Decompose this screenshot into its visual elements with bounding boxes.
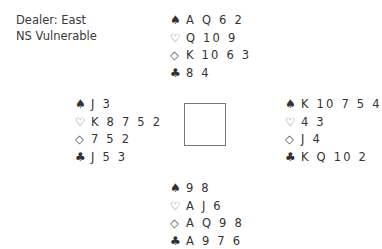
diamond-icon: ◇ <box>170 47 186 65</box>
south-hearts-row: ♡ A J 6 <box>170 198 244 216</box>
heart-icon: ♡ <box>75 114 91 132</box>
spade-icon: ♠ <box>170 180 186 198</box>
spade-icon: ♠ <box>170 12 186 30</box>
west-spades-row: ♠ J 3 <box>75 96 162 114</box>
diamond-icon: ◇ <box>75 131 91 149</box>
west-hearts: K 8 7 5 2 <box>91 114 162 132</box>
east-clubs: K Q 10 2 <box>301 149 368 167</box>
south-hand: ♠ 9 8 ♡ A J 6 ◇ A Q 9 8 ♣ A 9 7 6 <box>170 180 244 249</box>
club-icon: ♣ <box>75 149 91 167</box>
south-diamonds: A Q 9 8 <box>186 215 244 233</box>
heart-icon: ♡ <box>170 30 186 48</box>
east-spades-row: ♠ K 10 7 5 4 <box>285 96 382 114</box>
north-spades: A Q 6 2 <box>186 12 244 30</box>
south-clubs-row: ♣ A 9 7 6 <box>170 233 244 249</box>
east-clubs-row: ♣ K Q 10 2 <box>285 149 382 167</box>
east-spades: K 10 7 5 4 <box>301 96 382 114</box>
west-diamonds-row: ◇ 7 5 2 <box>75 131 162 149</box>
west-spades: J 3 <box>91 96 112 114</box>
club-icon: ♣ <box>170 233 186 249</box>
north-spades-row: ♠ A Q 6 2 <box>170 12 251 30</box>
south-spades-row: ♠ 9 8 <box>170 180 244 198</box>
north-hand: ♠ A Q 6 2 ♡ Q 10 9 ◇ K 10 6 3 ♣ 8 4 <box>170 12 251 82</box>
club-icon: ♣ <box>285 149 301 167</box>
table-center-box <box>184 103 226 146</box>
north-clubs-row: ♣ 8 4 <box>170 65 251 83</box>
east-diamonds: J 4 <box>301 131 322 149</box>
club-icon: ♣ <box>170 65 186 83</box>
north-hearts: Q 10 9 <box>186 30 238 48</box>
dealer-label: Dealer: East <box>16 12 97 28</box>
deal-info: Dealer: East NS Vulnerable <box>16 12 97 44</box>
east-diamonds-row: ◇ J 4 <box>285 131 382 149</box>
north-clubs: 8 4 <box>186 65 211 83</box>
south-hearts: A J 6 <box>186 198 223 216</box>
diamond-icon: ◇ <box>285 131 301 149</box>
vulnerability-label: NS Vulnerable <box>16 28 97 44</box>
heart-icon: ♡ <box>285 114 301 132</box>
west-hearts-row: ♡ K 8 7 5 2 <box>75 114 162 132</box>
heart-icon: ♡ <box>170 198 186 216</box>
east-hand: ♠ K 10 7 5 4 ♡ 4 3 ◇ J 4 ♣ K Q 10 2 <box>285 96 382 166</box>
north-diamonds-row: ◇ K 10 6 3 <box>170 47 251 65</box>
north-hearts-row: ♡ Q 10 9 <box>170 30 251 48</box>
west-clubs-row: ♣ J 5 3 <box>75 149 162 167</box>
east-hearts: 4 3 <box>301 114 326 132</box>
south-diamonds-row: ◇ A Q 9 8 <box>170 215 244 233</box>
west-hand: ♠ J 3 ♡ K 8 7 5 2 ◇ 7 5 2 ♣ J 5 3 <box>75 96 162 166</box>
south-spades: 9 8 <box>186 180 211 198</box>
west-diamonds: 7 5 2 <box>91 131 131 149</box>
spade-icon: ♠ <box>75 96 91 114</box>
spade-icon: ♠ <box>285 96 301 114</box>
north-diamonds: K 10 6 3 <box>186 47 251 65</box>
diamond-icon: ◇ <box>170 215 186 233</box>
west-clubs: J 5 3 <box>91 149 127 167</box>
east-hearts-row: ♡ 4 3 <box>285 114 382 132</box>
south-clubs: A 9 7 6 <box>186 233 242 249</box>
